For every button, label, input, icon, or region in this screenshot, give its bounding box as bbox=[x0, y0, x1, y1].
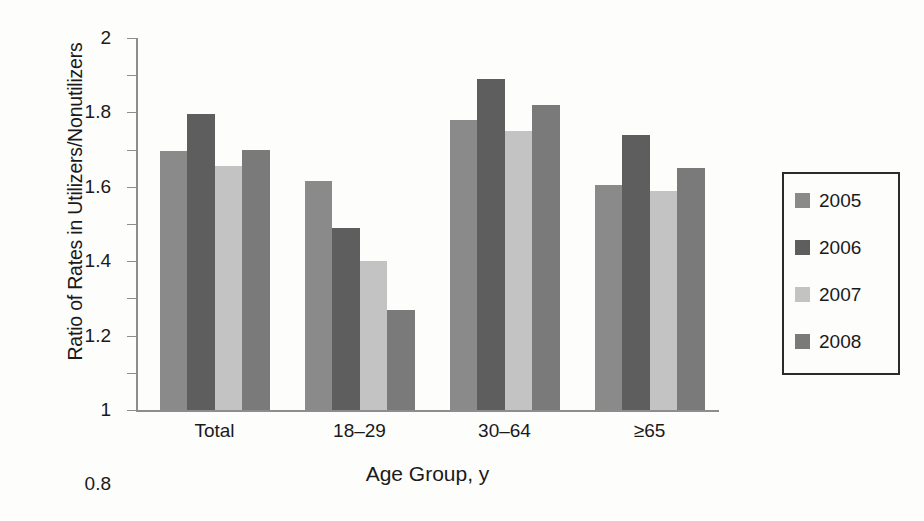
y-tick-mark: 1.4 bbox=[127, 150, 136, 151]
x-tick-label: ≥65 bbox=[634, 420, 666, 442]
legend-label: 2008 bbox=[819, 332, 861, 351]
y-tick-mark: 0 bbox=[127, 410, 136, 411]
bar-3064-2008[interactable] bbox=[532, 105, 560, 410]
bar-3064-2006[interactable] bbox=[477, 79, 505, 410]
bar-Total-2008[interactable] bbox=[242, 150, 270, 410]
bar-group bbox=[305, 38, 415, 410]
plot-area: 00.20.40.60.811.21.41.61.82 Total18–2930… bbox=[136, 38, 716, 410]
bar-65-2005[interactable] bbox=[595, 185, 623, 410]
bar-65-2007[interactable] bbox=[650, 191, 678, 410]
y-tick-mark: 0.6 bbox=[127, 298, 136, 299]
y-tick-label: 0.8 bbox=[85, 473, 111, 495]
legend-swatch-icon bbox=[795, 334, 810, 349]
y-tick-mark: 1.8 bbox=[127, 75, 136, 76]
y-tick-mark: 1.6 bbox=[127, 112, 136, 113]
y-tick-mark: 0.2 bbox=[127, 373, 136, 374]
bar-Total-2007[interactable] bbox=[215, 166, 243, 410]
x-tick-label: 18–29 bbox=[333, 420, 386, 442]
bar-Total-2005[interactable] bbox=[160, 151, 188, 410]
bar-65-2006[interactable] bbox=[622, 135, 650, 410]
bar-group bbox=[450, 38, 560, 410]
bar-1829-2005[interactable] bbox=[305, 181, 333, 410]
y-tick-mark: 0.8 bbox=[127, 261, 136, 262]
y-tick-label: 2 bbox=[100, 27, 111, 49]
y-tick-mark: 2 bbox=[127, 38, 136, 39]
bar-3064-2005[interactable] bbox=[450, 120, 478, 410]
x-axis-line bbox=[136, 410, 719, 412]
bar-1829-2008[interactable] bbox=[387, 310, 415, 410]
legend-label: 2005 bbox=[819, 191, 861, 210]
legend-entry-2008[interactable]: 2008 bbox=[795, 332, 861, 351]
x-tick-label: Total bbox=[194, 420, 234, 442]
x-tick-label: 30–64 bbox=[478, 420, 531, 442]
y-tick-label: 1.2 bbox=[85, 325, 111, 347]
y-tick-mark: 1.2 bbox=[127, 187, 136, 188]
legend-entry-2007[interactable]: 2007 bbox=[795, 285, 861, 304]
y-tick-label: 1 bbox=[100, 399, 111, 421]
y-tick-mark: 1 bbox=[127, 224, 136, 225]
legend-label: 2006 bbox=[819, 238, 861, 257]
legend-entry-2005[interactable]: 2005 bbox=[795, 191, 861, 210]
bar-1829-2007[interactable] bbox=[360, 261, 388, 410]
bar-chart-figure: Ratio of Rates in Utilizers/Nonutilizers… bbox=[0, 0, 924, 521]
x-axis-title: Age Group, y bbox=[136, 462, 719, 486]
y-tick-label: 1.6 bbox=[85, 176, 111, 198]
bar-group bbox=[595, 38, 705, 410]
bar-1829-2006[interactable] bbox=[332, 228, 360, 410]
legend-swatch-icon bbox=[795, 240, 810, 255]
legend-box: 2005200620072008 bbox=[782, 172, 900, 375]
bar-Total-2006[interactable] bbox=[187, 114, 215, 410]
legend-swatch-icon bbox=[795, 193, 810, 208]
y-tick-mark: 0.4 bbox=[127, 336, 136, 337]
bar-group bbox=[160, 38, 270, 410]
y-axis-line bbox=[136, 38, 138, 410]
legend-entry-2006[interactable]: 2006 bbox=[795, 238, 861, 257]
y-tick-label: 1.8 bbox=[85, 101, 111, 123]
legend-label: 2007 bbox=[819, 285, 861, 304]
bar-3064-2007[interactable] bbox=[505, 131, 533, 410]
y-tick-label: 1.4 bbox=[85, 250, 111, 272]
bar-65-2008[interactable] bbox=[677, 168, 705, 410]
legend-swatch-icon bbox=[795, 287, 810, 302]
y-axis-title: Ratio of Rates in Utilizers/Nonutilizers bbox=[64, 2, 87, 402]
